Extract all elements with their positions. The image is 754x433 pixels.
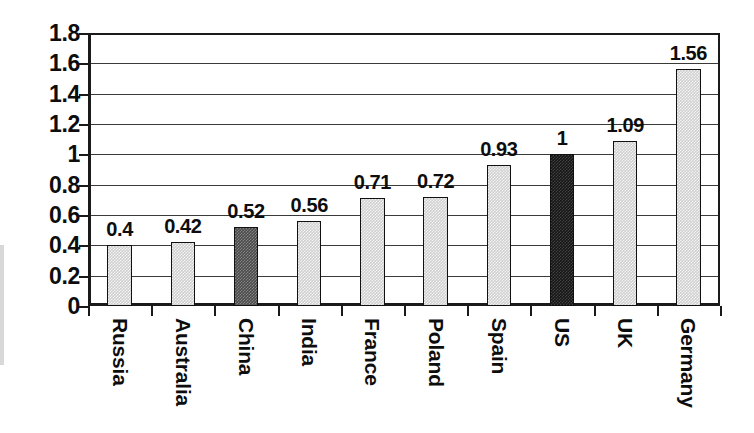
y-axis-tick-mark <box>79 306 88 308</box>
x-axis-tick-mark <box>341 306 343 316</box>
y-axis-tick-mark <box>79 124 88 126</box>
bar <box>550 154 574 306</box>
bar <box>423 197 447 306</box>
y-axis-tick-labels: 00.20.40.60.811.21.41.61.8 <box>8 0 80 433</box>
x-axis-category-label: France <box>362 318 383 386</box>
y-axis-tick-label: 1.4 <box>8 82 80 105</box>
x-axis-tick-mark <box>530 306 532 316</box>
y-axis-tick-mark <box>79 245 88 247</box>
y-axis-tick-label: 0.4 <box>8 234 80 257</box>
y-axis-tick-label: 0.2 <box>8 264 80 287</box>
y-axis-tick-label: 0.8 <box>8 173 80 196</box>
bar <box>297 221 321 306</box>
bar <box>487 165 511 306</box>
y-axis-tick-label: 1 <box>8 143 80 166</box>
x-axis-category-label: UK <box>615 318 636 348</box>
bar-chart: 00.20.40.60.811.21.41.61.8 0.40.420.520.… <box>0 0 754 433</box>
y-axis-tick-mark <box>79 94 88 96</box>
y-axis-tick-label: 0 <box>8 295 80 318</box>
scan-edge-artifact <box>0 245 4 365</box>
y-axis-tick-label: 1.8 <box>8 22 80 45</box>
x-axis-tick-mark <box>467 306 469 316</box>
x-axis-tick-mark <box>278 306 280 316</box>
x-axis-category-label: Russia <box>109 318 130 386</box>
x-axis-category-labels: RussiaAustraliaChinaIndiaFrancePolandSpa… <box>88 318 720 433</box>
x-axis-category-label: Australia <box>172 318 193 406</box>
x-axis-tick-mark <box>214 306 216 316</box>
bar <box>234 227 258 306</box>
y-axis-tick-mark <box>79 185 88 187</box>
y-axis-tick-label: 0.6 <box>8 204 80 227</box>
x-axis-category-label: Spain <box>488 318 509 374</box>
x-axis-tick-mark <box>404 306 406 316</box>
y-axis-tick-label: 1.2 <box>8 113 80 136</box>
x-axis-category-label: Germany <box>678 318 699 408</box>
bars-layer <box>88 33 720 306</box>
x-axis-category-label: US <box>552 318 573 347</box>
x-axis-tick-mark <box>151 306 153 316</box>
y-axis-tick-mark <box>79 276 88 278</box>
y-axis-tick-mark <box>79 33 88 35</box>
x-axis-category-label: Poland <box>425 318 446 387</box>
y-axis-tick-mark <box>79 154 88 156</box>
x-axis-category-label: China <box>236 318 257 375</box>
bar <box>107 245 131 306</box>
bar <box>360 198 384 306</box>
x-axis-tick-mark <box>88 306 90 316</box>
x-axis-tick-mark <box>720 306 722 316</box>
y-axis-tick-label: 1.6 <box>8 52 80 75</box>
bar <box>171 242 195 306</box>
y-axis-tick-mark <box>79 215 88 217</box>
x-axis-tick-mark <box>594 306 596 316</box>
x-axis-category-label: India <box>299 318 320 366</box>
y-axis-tick-mark <box>79 63 88 65</box>
bar <box>613 141 637 306</box>
x-axis-tick-mark <box>657 306 659 316</box>
bar <box>676 69 700 306</box>
x-axis-tick-marks <box>88 306 720 318</box>
